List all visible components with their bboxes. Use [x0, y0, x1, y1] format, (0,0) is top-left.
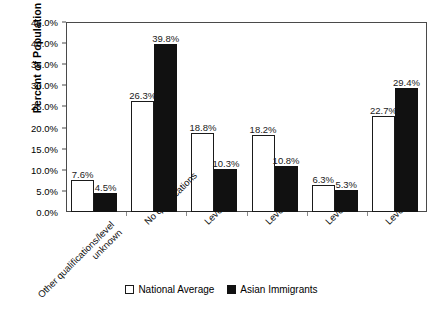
x-axis-tick-mark	[126, 212, 127, 216]
x-axis-category-label: Level 2	[263, 197, 292, 226]
x-axis-tick-mark	[247, 212, 248, 216]
legend-item[interactable]: National Average	[125, 284, 214, 295]
x-axis-category-labels: Other qualifications/levelunknownNo qual…	[0, 0, 443, 321]
x-axis-category-label: No qualifications	[142, 170, 199, 227]
legend-label: National Average	[138, 284, 214, 295]
filled-square-marker	[227, 285, 236, 294]
x-axis-tick-mark	[367, 212, 368, 216]
x-axis-tick-mark	[307, 212, 308, 216]
x-axis-category-label: Level 4/5	[383, 192, 418, 227]
chart-legend: National AverageAsian Immigrants	[0, 284, 443, 295]
legend-label: Asian Immigrants	[240, 284, 317, 295]
legend-item[interactable]: Asian Immigrants	[227, 284, 317, 295]
bar-chart: Percent of Population 0.0%5.0%10.0%15.0%…	[0, 0, 443, 321]
x-axis-category-label: Level 3	[323, 197, 352, 226]
open-square-marker	[125, 285, 134, 294]
x-axis-tick-mark	[186, 212, 187, 216]
x-axis-category-label: Level 1	[202, 197, 231, 226]
